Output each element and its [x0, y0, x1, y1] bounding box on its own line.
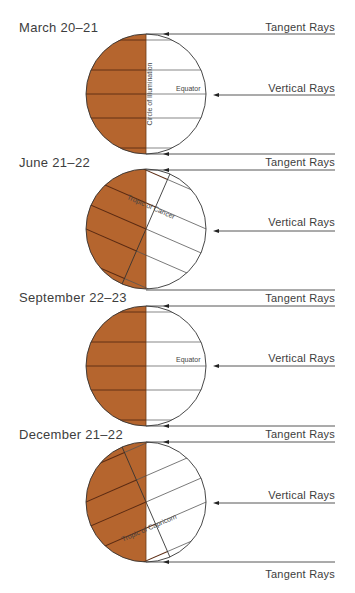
earth-sun-relationship-diagram: March 20–21Tangent RaysVertical RaysEqua… — [0, 0, 355, 593]
season-title: March 20–21 — [19, 20, 98, 35]
vertical-rays-label: Vertical Rays — [268, 352, 335, 364]
arrow-left-icon — [213, 93, 219, 97]
tangent-rays-label: Tangent Rays — [265, 428, 335, 440]
arrow-left-icon — [163, 304, 169, 308]
arrow-left-icon — [163, 440, 169, 444]
equator-label: Equator — [176, 85, 201, 93]
tangent-rays-label: Tangent Rays — [265, 21, 335, 33]
tangent-rays-label: Tangent Rays — [265, 568, 335, 580]
arrow-left-icon — [163, 152, 169, 156]
season-panel: March 20–21Tangent RaysVertical RaysEqua… — [19, 20, 335, 156]
equator-label: Equator — [176, 356, 201, 364]
circle-of-illumination-label: Circle of Illumination — [146, 62, 153, 125]
tangent-rays-label: Tangent Rays — [265, 292, 335, 304]
season-title: December 21–22 — [19, 427, 123, 442]
arrow-left-icon — [163, 560, 169, 564]
vertical-rays-label: Vertical Rays — [268, 216, 335, 228]
arrow-left-icon — [213, 501, 219, 505]
night-side — [85, 441, 146, 563]
arrow-left-icon — [213, 229, 219, 233]
night-side — [85, 168, 146, 290]
tangent-rays-label: Tangent Rays — [265, 156, 335, 168]
season-title: September 22–23 — [19, 290, 127, 305]
arrow-left-icon — [163, 32, 169, 36]
season-title: June 21–22 — [19, 155, 90, 170]
season-panel: September 22–23Tangent RaysVertical Rays… — [19, 290, 335, 428]
vertical-rays-label: Vertical Rays — [268, 82, 335, 94]
arrow-left-icon — [213, 364, 219, 368]
arrow-left-icon — [163, 424, 169, 428]
season-panel: December 21–22Tangent RaysVertical RaysT… — [19, 410, 335, 593]
vertical-rays-label: Vertical Rays — [268, 489, 335, 501]
